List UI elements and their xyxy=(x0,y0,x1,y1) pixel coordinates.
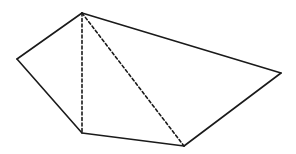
edge-BC xyxy=(17,59,82,133)
edge-DE xyxy=(184,73,281,146)
pentagon-diagram xyxy=(0,0,296,154)
pentagon-outline xyxy=(17,13,281,146)
diagonal-lines xyxy=(82,13,184,146)
edge-CD xyxy=(82,133,184,146)
edge-AB xyxy=(17,13,82,59)
edge-EA xyxy=(82,13,281,73)
diagonal-AD xyxy=(82,13,184,146)
